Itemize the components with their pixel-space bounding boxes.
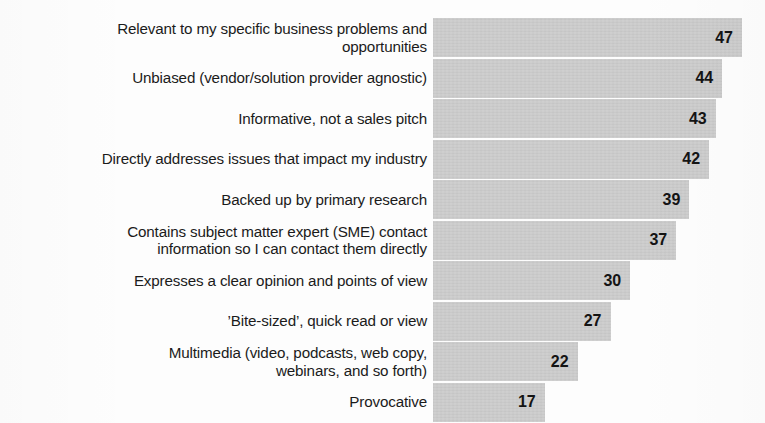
bar-category-label: Provocative xyxy=(0,393,433,411)
bar: 17 xyxy=(433,383,545,422)
bar: 43 xyxy=(433,99,716,138)
bar-track: 27 xyxy=(433,302,765,341)
bar: 30 xyxy=(433,261,630,300)
bar: 44 xyxy=(433,59,722,98)
bar: 39 xyxy=(433,180,689,219)
bar-track: 17 xyxy=(433,383,765,422)
bar-row: Multimedia (video, podcasts, web copy, w… xyxy=(0,342,765,381)
bar: 37 xyxy=(433,221,676,260)
bar-category-label: Backed up by primary research xyxy=(0,191,433,209)
bar-row: ’Bite-sized’, quick read or view27 xyxy=(0,302,765,341)
bar-category-label: Multimedia (video, podcasts, web copy, w… xyxy=(0,344,433,379)
bar-row: Directly addresses issues that impact my… xyxy=(0,140,765,179)
bar-row: Provocative17 xyxy=(0,383,765,422)
bar-track: 44 xyxy=(433,59,765,98)
bar: 22 xyxy=(433,342,578,381)
bar-row: Expresses a clear opinion and points of … xyxy=(0,261,765,300)
bar-track: 47 xyxy=(433,18,765,57)
bar-track: 42 xyxy=(433,140,765,179)
bar-category-label: Unbiased (vendor/solution provider agnos… xyxy=(0,69,433,87)
bar-track: 39 xyxy=(433,180,765,219)
bar-track: 37 xyxy=(433,221,765,260)
bar-value-label: 42 xyxy=(682,150,700,168)
bar-value-label: 44 xyxy=(695,69,713,87)
bar-row: Backed up by primary research39 xyxy=(0,180,765,219)
bar: 42 xyxy=(433,140,709,179)
bar-value-label: 39 xyxy=(663,191,681,209)
bar: 47 xyxy=(433,18,742,57)
bar-category-label: ’Bite-sized’, quick read or view xyxy=(0,312,433,330)
bar-category-label: Directly addresses issues that impact my… xyxy=(0,150,433,168)
bar-value-label: 47 xyxy=(715,29,733,47)
bar-category-label: Informative, not a sales pitch xyxy=(0,110,433,128)
bar-track: 43 xyxy=(433,99,765,138)
bar-value-label: 17 xyxy=(518,393,536,411)
bar-row: Unbiased (vendor/solution provider agnos… xyxy=(0,59,765,98)
bar-row: Relevant to my specific business problem… xyxy=(0,18,765,57)
bar-value-label: 22 xyxy=(551,353,569,371)
bar-value-label: 30 xyxy=(603,272,621,290)
bar-category-label: Contains subject matter expert (SME) con… xyxy=(0,223,433,258)
bar-row: Contains subject matter expert (SME) con… xyxy=(0,221,765,260)
bar-value-label: 43 xyxy=(689,110,707,128)
chart-page: Relevant to my specific business problem… xyxy=(0,0,765,423)
bar-category-label: Relevant to my specific business problem… xyxy=(0,20,433,55)
bar-track: 30 xyxy=(433,261,765,300)
bar-category-label: Expresses a clear opinion and points of … xyxy=(0,272,433,290)
bar: 27 xyxy=(433,302,611,341)
bar-value-label: 37 xyxy=(649,231,667,249)
horizontal-bar-chart: Relevant to my specific business problem… xyxy=(0,0,765,423)
bar-track: 22 xyxy=(433,342,765,381)
bar-row: Informative, not a sales pitch43 xyxy=(0,99,765,138)
bar-value-label: 27 xyxy=(584,312,602,330)
